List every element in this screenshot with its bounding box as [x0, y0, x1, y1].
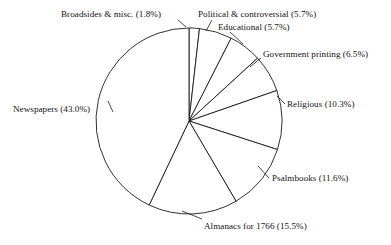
pie-chart-svg — [0, 0, 391, 245]
pie-chart-page: Broadsides & misc. (1.8%)Political & con… — [0, 0, 391, 245]
pie-leader-line — [178, 20, 186, 27]
pie-slice-label: Educational (5.7%) — [218, 22, 290, 33]
pie-slice-label: Broadsides & misc. (1.8%) — [61, 9, 161, 20]
pie-leader-line — [206, 20, 212, 31]
pie-slice-label: Political & controversial (5.7%) — [198, 9, 316, 20]
pie-slice-label: Almanacs for 1766 (15.5%) — [204, 221, 307, 232]
pie-slice-label: Psalmbooks (11.6%) — [272, 173, 348, 184]
pie-slice-group — [96, 28, 282, 214]
pie-slice-label: Religious (10.3%) — [287, 99, 355, 110]
pie-slice-label: Newspapers (43.0%) — [13, 104, 90, 115]
pie-slice-label: Government printing (6.5%) — [263, 49, 368, 60]
